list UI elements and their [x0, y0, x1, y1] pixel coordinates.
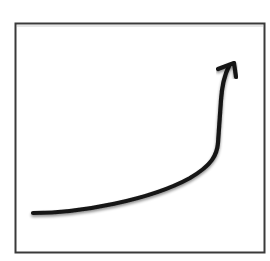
growth-diagram-svg — [0, 0, 270, 261]
growth-diagram — [0, 0, 270, 261]
frame-inner-shadow — [17, 25, 263, 27]
frame-border — [16, 24, 265, 253]
